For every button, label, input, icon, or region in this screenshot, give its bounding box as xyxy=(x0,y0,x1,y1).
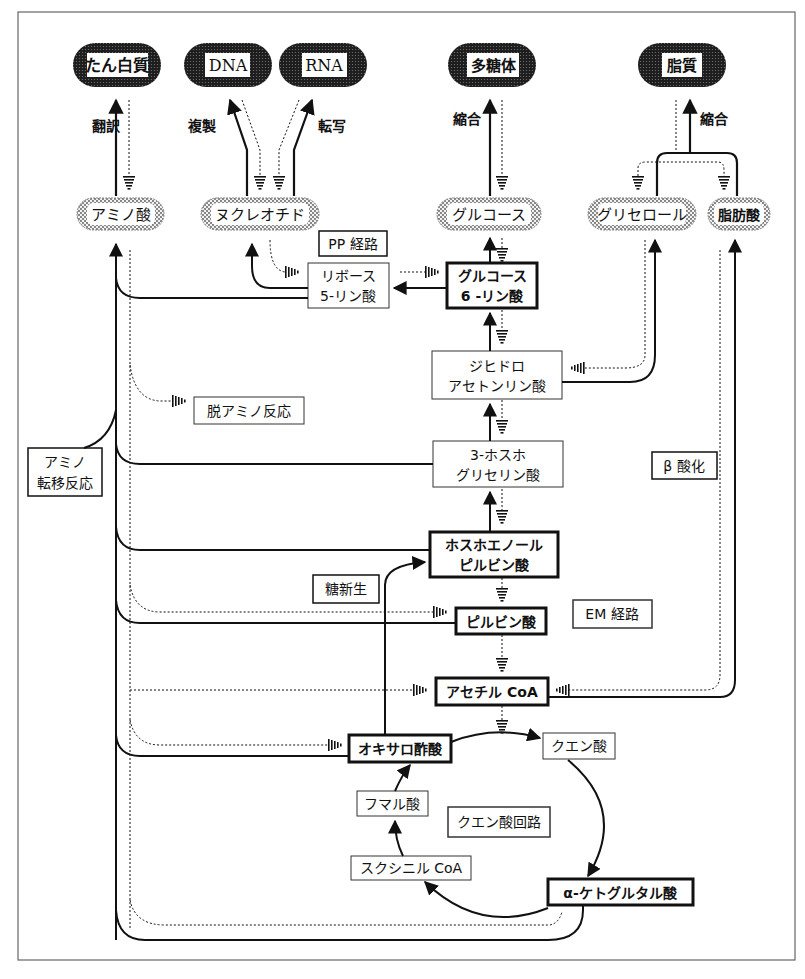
catabolic-lines xyxy=(130,238,720,930)
node-ribose-5-phosphate: リボース 5-リン酸 xyxy=(308,263,389,308)
metabolic-pathway-diagram: たん白質 DNA RNA 多糖体 脂質 アミノ酸 ヌクレオチド グルコース xyxy=(0,0,805,979)
label-replication: 複製 xyxy=(187,118,216,134)
svg-text:5-リン酸: 5-リン酸 xyxy=(320,288,376,304)
svg-text:β 酸化: β 酸化 xyxy=(663,458,704,474)
svg-text:グリセロール: グリセロール xyxy=(597,206,687,224)
svg-text:脂質: 脂質 xyxy=(667,57,697,75)
node-alpha-ketoglutarate: α-ケトグルタル酸 xyxy=(548,879,693,905)
node-pep: ホスホエノール ピルビン酸 xyxy=(430,532,558,577)
svg-text:クエン酸: クエン酸 xyxy=(551,738,607,754)
svg-text:グリセリン酸: グリセリン酸 xyxy=(456,467,540,483)
label-transamination: アミノ 転移反応 xyxy=(28,448,102,496)
svg-text:たん白質: たん白質 xyxy=(85,56,149,75)
svg-text:ジヒドロ: ジヒドロ xyxy=(469,358,525,374)
catabolic-heads-top xyxy=(123,176,730,190)
svg-text:スクシニル CoA: スクシニル CoA xyxy=(360,860,463,876)
svg-text:6 -リン酸: 6 -リン酸 xyxy=(461,288,524,304)
svg-text:α-ケトグルタル酸: α-ケトグルタル酸 xyxy=(563,885,677,901)
catabolic-lines-top xyxy=(129,100,724,176)
label-gluconeogenesis: 糖新生 xyxy=(313,575,379,603)
svg-text:EM 経路: EM 経路 xyxy=(585,606,638,622)
node-citrate: クエン酸 xyxy=(543,733,615,759)
svg-text:PP 経路: PP 経路 xyxy=(328,236,377,252)
svg-text:脂肪酸: 脂肪酸 xyxy=(717,207,761,223)
node-rna: RNA xyxy=(279,43,367,87)
node-lipid: 脂質 xyxy=(638,43,726,87)
label-em-pathway: EM 経路 xyxy=(573,600,652,628)
svg-text:DNA: DNA xyxy=(209,56,248,75)
svg-text:アセトンリン酸: アセトンリン酸 xyxy=(448,378,546,394)
node-acetyl-coa: アセチル CoA xyxy=(436,678,548,705)
svg-text:転移反応: 転移反応 xyxy=(37,475,93,491)
svg-text:糖新生: 糖新生 xyxy=(325,581,367,597)
label-tca-cycle: クエン酸回路 xyxy=(448,807,550,837)
svg-text:3-ホスホ: 3-ホスホ xyxy=(470,447,526,463)
svg-text:ホスホエノール: ホスホエノール xyxy=(445,537,543,553)
node-glucose-6-phosphate: グルコース 6 -リン酸 xyxy=(447,263,537,308)
node-dhap: ジヒドロ アセトンリン酸 xyxy=(432,351,562,399)
svg-text:アミノ: アミノ xyxy=(44,454,86,470)
anabolic-lines xyxy=(84,238,735,940)
label-pp-pathway: PP 経路 xyxy=(319,231,387,256)
node-pyruvate: ピルビン酸 xyxy=(456,608,546,634)
node-nucleotide: ヌクレオチド xyxy=(201,198,319,230)
node-protein: たん白質 xyxy=(73,43,161,87)
catabolic-heads xyxy=(172,248,585,751)
svg-text:グルコース: グルコース xyxy=(458,268,527,284)
node-amino-acid: アミノ酸 xyxy=(77,198,164,230)
svg-text:リボース: リボース xyxy=(321,268,376,284)
node-polysaccharide: 多糖体 xyxy=(448,43,536,87)
svg-text:ピルビン酸: ピルビン酸 xyxy=(459,557,530,573)
svg-text:アセチル CoA: アセチル CoA xyxy=(446,684,538,700)
node-glucose: グルコース xyxy=(437,198,541,230)
svg-text:オキサロ酢酸: オキサロ酢酸 xyxy=(358,741,443,757)
diagram-frame xyxy=(18,12,795,960)
label-condensation-lipid: 縮合 xyxy=(700,111,729,127)
node-succinyl-coa: スクシニル CoA xyxy=(351,856,471,880)
node-3-phosphoglycerate: 3-ホスホ グリセリン酸 xyxy=(433,441,563,487)
node-fumarate: フマル酸 xyxy=(357,791,428,816)
svg-text:フマル酸: フマル酸 xyxy=(364,796,420,812)
label-condensation-sugar: 縮合 xyxy=(453,111,482,127)
anabolic-arrows-top xyxy=(116,100,737,196)
label-deamination: 脱アミノ反応 xyxy=(194,397,304,424)
node-fatty-acid: 脂肪酸 xyxy=(708,198,770,230)
svg-text:RNA: RNA xyxy=(305,56,343,75)
node-oxaloacetate: オキサロ酢酸 xyxy=(349,735,451,762)
svg-text:アミノ酸: アミノ酸 xyxy=(91,206,151,224)
node-dna: DNA xyxy=(184,43,272,87)
node-glycerol: グリセロール xyxy=(588,198,696,230)
svg-text:多糖体: 多糖体 xyxy=(471,57,517,75)
label-translation: 翻訳 xyxy=(92,118,121,134)
svg-text:ピルビン酸: ピルビン酸 xyxy=(466,614,537,630)
svg-text:脱アミノ反応: 脱アミノ反応 xyxy=(207,403,291,419)
label-beta-oxidation: β 酸化 xyxy=(652,452,717,479)
svg-text:グルコース: グルコース xyxy=(452,206,526,224)
svg-text:ヌクレオチド: ヌクレオチド xyxy=(215,206,305,224)
svg-text:クエン酸回路: クエン酸回路 xyxy=(457,814,541,830)
label-transcription: 転写 xyxy=(318,118,346,134)
